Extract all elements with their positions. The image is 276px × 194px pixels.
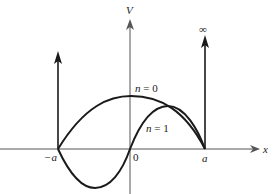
curve-n0: [58, 96, 205, 149]
tick-label-a: a: [202, 152, 208, 164]
label-n0: n = 0: [135, 82, 158, 94]
tick-label-zero: 0: [133, 151, 139, 163]
diagram-svg: x V ∞ n = 0 n = 1 −a 0 a: [0, 0, 276, 194]
potential-well-diagram: x V ∞ n = 0 n = 1 −a 0 a: [0, 0, 276, 194]
infinity-label: ∞: [199, 23, 207, 35]
label-n1: n = 1: [146, 122, 169, 134]
v-axis-label: V: [126, 4, 134, 16]
tick-label-neg-a: −a: [44, 151, 57, 163]
x-axis-label: x: [262, 143, 268, 155]
